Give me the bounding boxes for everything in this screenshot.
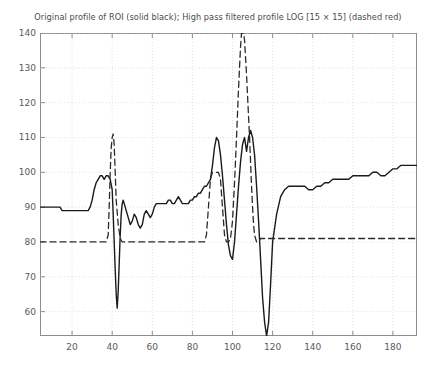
x-axis-tick-labels: 20406080100120140160180 — [40, 342, 417, 358]
y-axis-tick-labels: 60708090100110120130140 — [0, 33, 36, 336]
y-tick-label: 90 — [25, 202, 36, 212]
x-tick-label: 180 — [384, 342, 401, 352]
x-tick-label: 20 — [66, 342, 77, 352]
axis-ticks — [40, 33, 393, 336]
x-tick-label: 40 — [106, 342, 117, 352]
series-line-0 — [40, 131, 417, 336]
y-tick-label: 60 — [25, 307, 36, 317]
x-tick-label: 60 — [147, 342, 158, 352]
series-layer — [40, 33, 417, 336]
plot-svg — [40, 33, 417, 336]
x-tick-label: 140 — [304, 342, 321, 352]
y-tick-label: 80 — [25, 237, 36, 247]
series-line-1 — [40, 33, 417, 242]
chart-figure: Original profile of ROI (solid black); H… — [0, 0, 436, 365]
x-tick-label: 80 — [187, 342, 198, 352]
x-tick-label: 100 — [224, 342, 241, 352]
y-tick-label: 110 — [19, 132, 36, 142]
plot-area — [40, 33, 417, 336]
x-tick-label: 120 — [264, 342, 281, 352]
gridlines — [40, 33, 417, 336]
y-tick-label: 140 — [19, 28, 36, 38]
y-tick-label: 120 — [19, 98, 36, 108]
x-tick-label: 160 — [344, 342, 361, 352]
y-tick-label: 70 — [25, 272, 36, 282]
y-tick-label: 130 — [19, 63, 36, 73]
y-tick-label: 100 — [19, 167, 36, 177]
chart-title: Original profile of ROI (solid black); H… — [0, 12, 436, 22]
